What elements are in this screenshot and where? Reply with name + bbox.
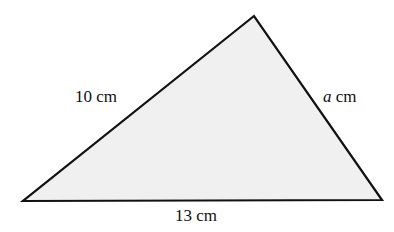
bottom-side-unit: cm	[196, 206, 217, 225]
bottom-side-label: 13 cm	[175, 207, 217, 224]
left-side-unit: cm	[96, 87, 117, 106]
left-side-label: 10 cm	[75, 88, 117, 105]
triangle	[23, 16, 382, 201]
left-side-value: 10	[75, 87, 92, 106]
bottom-side-value: 13	[175, 206, 192, 225]
right-side-label: a cm	[323, 88, 357, 105]
triangle-figure	[0, 0, 394, 232]
right-side-unit: cm	[336, 87, 357, 106]
right-side-variable: a	[323, 87, 332, 106]
